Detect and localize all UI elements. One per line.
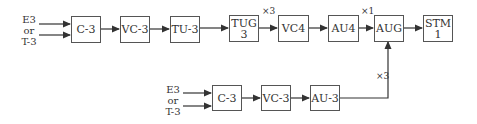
input-t3: T-3 xyxy=(18,36,40,47)
top-input-label: E3 or T-3 xyxy=(18,14,40,47)
box-tu3: TU-3 xyxy=(170,16,200,43)
multiplier-x3-bottom: ×3 xyxy=(376,71,389,81)
box-vc3-bottom: VC-3 xyxy=(261,85,291,111)
multiplier-x1: ×1 xyxy=(361,6,374,16)
multiplier-x3-top: ×3 xyxy=(262,6,275,16)
box-tug3: TUG 3 xyxy=(229,15,259,42)
input-e3-bottom: E3 xyxy=(162,84,184,95)
box-c3-bottom: C-3 xyxy=(212,85,242,111)
box-vc3-top: VC-3 xyxy=(120,16,150,43)
box-aug: AUG xyxy=(374,15,404,42)
bottom-input-label: E3 or T-3 xyxy=(162,84,184,117)
box-au3: AU-3 xyxy=(310,85,340,111)
box-stm1: STM 1 xyxy=(423,15,453,42)
input-or: or xyxy=(18,25,40,36)
box-c3-top: C-3 xyxy=(71,16,101,43)
input-or-bottom: or xyxy=(162,95,184,106)
box-vc4: VC4 xyxy=(278,15,309,42)
input-t3-bottom: T-3 xyxy=(162,106,184,117)
box-au4: AU4 xyxy=(328,15,359,42)
input-e3: E3 xyxy=(18,14,40,25)
